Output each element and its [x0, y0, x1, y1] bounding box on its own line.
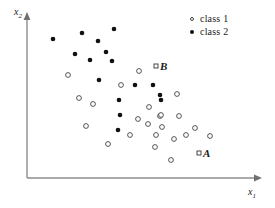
x-axis-label: x1 — [248, 186, 256, 200]
data-point-class-2 — [117, 98, 122, 103]
data-point-class-2 — [80, 31, 85, 36]
data-point-class-2 — [112, 27, 117, 32]
annotation-markers: BA — [154, 60, 210, 159]
data-point-class-1 — [66, 73, 71, 78]
data-point-class-2 — [158, 93, 163, 98]
data-point-class-1 — [160, 125, 165, 130]
data-point-class-2 — [159, 98, 164, 103]
data-point-class-1 — [91, 102, 96, 107]
data-point-class-2 — [88, 58, 93, 63]
data-point-class-1 — [146, 122, 151, 127]
data-point-class-1 — [154, 133, 159, 138]
data-point-class-1 — [137, 69, 142, 74]
data-point-class-1 — [84, 124, 89, 129]
open-circle-icon — [186, 17, 198, 21]
legend-item-class-2: class 2 — [186, 25, 270, 38]
legend-label-class-1: class 1 — [198, 13, 228, 24]
data-point-class-1 — [119, 83, 124, 88]
annotation-label-b: B — [159, 60, 167, 72]
x-axis-arrow-icon — [254, 175, 262, 182]
scatter-plot-figure: BA x2 x1 class 1 class 2 — [0, 0, 275, 208]
annotation-square-b-icon — [154, 64, 158, 68]
data-point-class-2 — [133, 83, 138, 88]
data-point-class-2 — [118, 113, 123, 118]
legend-item-class-1: class 1 — [186, 12, 270, 25]
annotation-label-a: A — [202, 147, 210, 159]
data-point-class-2 — [104, 50, 109, 55]
x-axis-label-subscript: 1 — [252, 192, 256, 200]
data-point-class-1 — [169, 158, 174, 163]
data-points — [51, 27, 213, 163]
data-point-class-1 — [193, 126, 198, 131]
legend-label-class-2: class 2 — [198, 26, 228, 37]
y-axis-arrow-icon — [24, 12, 31, 20]
y-axis-label: x2 — [14, 6, 22, 20]
data-point-class-1 — [184, 133, 189, 138]
data-point-class-1 — [106, 142, 111, 147]
data-point-class-1 — [77, 96, 82, 101]
annotation-square-a-icon — [197, 151, 201, 155]
data-point-class-2 — [73, 52, 78, 57]
legend: class 1 class 2 — [186, 12, 270, 38]
data-point-class-1 — [159, 113, 164, 118]
data-point-class-2 — [151, 83, 156, 88]
data-point-class-1 — [177, 114, 182, 119]
data-point-class-1 — [153, 145, 158, 150]
filled-circle-icon — [186, 30, 198, 34]
data-point-class-2 — [110, 59, 115, 64]
data-point-class-2 — [97, 78, 102, 83]
data-point-class-1 — [172, 137, 177, 142]
data-point-class-2 — [116, 128, 121, 133]
data-point-class-1 — [128, 133, 133, 138]
data-point-class-1 — [147, 105, 152, 110]
data-point-class-2 — [51, 37, 56, 42]
data-point-class-1 — [175, 92, 180, 97]
data-point-class-2 — [96, 39, 101, 44]
data-point-class-1 — [136, 117, 141, 122]
data-point-class-1 — [208, 134, 213, 139]
y-axis-label-subscript: 2 — [18, 12, 22, 20]
